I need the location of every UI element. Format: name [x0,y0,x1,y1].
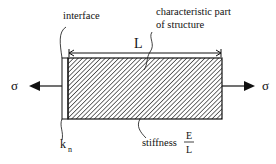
kn-subscript: n [68,145,72,154]
length-label: L [134,36,143,51]
kn-label: k [60,137,66,151]
characteristic-label-line2: of structure [156,19,204,30]
stiffness-label: stiffness [142,137,177,148]
stiffness-denominator: L [186,144,192,155]
interface-leader [60,27,66,58]
interface-label: interface [63,10,100,21]
length-dimension [69,49,221,57]
stress-left-label: σ [11,78,18,93]
stress-right-label: σ [262,78,269,93]
characteristic-label-line1: characteristic part [156,6,231,17]
structure-diagram: L σ σ interface characteristic part of s… [0,0,276,164]
left-stress-arrow [29,81,62,91]
right-stress-arrow [222,81,255,91]
stiffness-leader [138,119,146,138]
interface-layer [62,58,68,119]
stiffness-numerator: E [186,130,192,141]
